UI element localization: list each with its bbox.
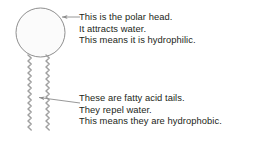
callout-tails-line-3: This means they are hydrophobic. — [79, 115, 222, 127]
callout-tails-line-1: These are fatty acid tails. — [79, 92, 222, 104]
fatty-acid-tail — [46, 55, 49, 130]
leader-line-fatty-acid-tails — [39, 98, 80, 104]
fatty-acid-tail — [28, 55, 31, 130]
polar-head-callout: This is the polar head. It attracts wate… — [79, 11, 196, 46]
callout-head-line-3: This means it is hydrophilic. — [79, 34, 196, 46]
polar-head — [16, 8, 65, 57]
callout-head-line-2: It attracts water. — [79, 23, 196, 35]
callout-head-line-1: This is the polar head. — [79, 11, 196, 23]
fatty-acid-tails-callout: These are fatty acid tails. They repel w… — [79, 92, 222, 127]
callout-tails-line-2: They repel water. — [79, 104, 222, 116]
